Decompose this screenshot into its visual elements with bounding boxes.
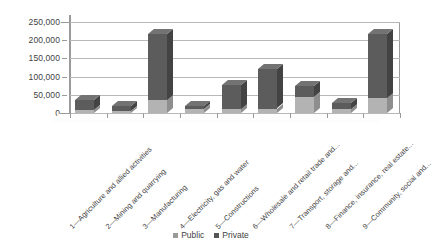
bar-face-front bbox=[75, 100, 94, 110]
legend-item-public: Public bbox=[173, 230, 204, 240]
bar-segment-private bbox=[258, 69, 277, 108]
bar-face-front bbox=[148, 34, 167, 101]
bar-segment-private bbox=[295, 86, 314, 97]
gridline bbox=[70, 77, 400, 78]
bar-face-front bbox=[368, 98, 387, 113]
y-tick-label: 50,000 bbox=[33, 90, 60, 100]
bar-column bbox=[148, 34, 167, 113]
plot-area bbox=[70, 22, 400, 113]
chart-depth-left bbox=[60, 15, 71, 113]
gridline bbox=[70, 22, 400, 23]
bar-face-front bbox=[295, 97, 314, 113]
chart-legend: Public Private bbox=[0, 230, 422, 240]
x-axis-labels: 1—Agriculture and allied activities2—Min… bbox=[0, 112, 422, 222]
bar-column bbox=[295, 86, 314, 113]
bar-segment-private bbox=[222, 85, 241, 110]
bar-face-front bbox=[295, 86, 314, 97]
bar-column bbox=[222, 85, 241, 113]
bar-segment-public bbox=[295, 97, 314, 113]
bar-face-side bbox=[387, 29, 393, 99]
gridline bbox=[70, 40, 400, 41]
y-tick-label: 200,000 bbox=[29, 35, 60, 45]
legend-swatch-icon bbox=[214, 233, 219, 238]
x-axis-label: 7—Transport, storage and... bbox=[287, 159, 359, 231]
bar-face-front bbox=[222, 85, 241, 110]
bar-segment-private bbox=[75, 100, 94, 110]
bar-face-front bbox=[368, 34, 387, 99]
y-tick-label: 100,000 bbox=[29, 72, 60, 82]
bar-face-front bbox=[258, 69, 277, 108]
x-axis-label: 9—Community, social and... bbox=[361, 159, 433, 231]
bar-face-side bbox=[277, 64, 283, 108]
gridline bbox=[70, 58, 400, 59]
y-tick-label: 250,000 bbox=[29, 17, 60, 27]
bar-segment-private bbox=[368, 34, 387, 99]
bar-segment-private bbox=[148, 34, 167, 101]
legend-label: Public bbox=[181, 230, 204, 240]
bar-face-side bbox=[167, 29, 173, 101]
x-axis-label: 4—Electricity, gas and water bbox=[177, 158, 250, 231]
bar-column bbox=[258, 69, 277, 113]
legend-swatch-icon bbox=[173, 233, 178, 238]
bar-segment-public bbox=[368, 98, 387, 113]
x-axis-label: 2—Mining and quarrying bbox=[104, 167, 168, 231]
legend-label: Private bbox=[222, 230, 248, 240]
legend-item-private: Private bbox=[214, 230, 248, 240]
bar-column bbox=[368, 34, 387, 113]
y-tick-label: 150,000 bbox=[29, 53, 60, 63]
